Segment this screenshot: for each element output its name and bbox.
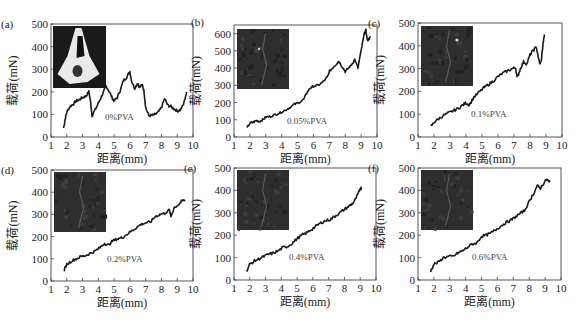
x-tick-label: 8 <box>526 282 532 294</box>
y-tick-label: 200 <box>32 86 49 98</box>
x-tick-label: 7 <box>326 282 332 294</box>
y-tick-label: 0 <box>226 274 232 286</box>
x-tick-label: 7 <box>511 139 517 151</box>
inset-micrograph <box>237 29 289 89</box>
chart-panel-a: 123456789100100200300400500(a)距离(mm)载荷(m… <box>1 18 199 166</box>
x-tick-label: 6 <box>310 282 316 294</box>
chart-panel-d: 123456789100100200300400500(d)距离(mm)载荷(m… <box>1 164 199 310</box>
x-tick-label: 10 <box>557 139 569 151</box>
x-tick-label: 9 <box>543 139 549 151</box>
inset-micrograph <box>421 170 474 231</box>
x-tick-label: 9 <box>542 282 548 294</box>
x-tick-label: 1 <box>48 283 54 295</box>
y-tick-label: 100 <box>399 108 416 120</box>
y-axis-label: 载荷(mN) <box>189 199 203 249</box>
x-tick-label: 2 <box>431 282 437 294</box>
panel-label: (b) <box>191 16 204 29</box>
y-tick-label: 500 <box>32 18 49 30</box>
y-tick-label: 200 <box>215 229 232 241</box>
x-tick-label: 6 <box>311 139 317 151</box>
y-axis-label: 载荷(mN) <box>6 201 20 251</box>
x-tick-label: 5 <box>294 282 300 294</box>
y-tick-label: 500 <box>399 162 416 174</box>
x-tick-label: 10 <box>372 139 384 151</box>
x-tick-label: 8 <box>342 139 348 151</box>
y-tick-label: 0 <box>43 131 49 143</box>
x-tick-label: 4 <box>463 282 469 294</box>
chart-panel-c: 123456789100100200300400500(c)距离(mm)载荷(m… <box>368 17 568 166</box>
pva-annotation: 0.05%PVA <box>287 116 328 126</box>
x-tick-label: 7 <box>327 139 333 151</box>
figure-canvas: 123456789100100200300400500(a)距离(mm)载荷(m… <box>0 0 582 322</box>
x-tick-label: 5 <box>295 139 301 151</box>
y-tick-label: 100 <box>32 253 49 265</box>
x-tick-label: 5 <box>111 139 117 151</box>
x-tick-label: 8 <box>527 139 533 151</box>
y-tick-label: 600 <box>215 28 232 40</box>
pva-annotation: 0.2%PVA <box>107 254 143 264</box>
y-tick-label: 100 <box>215 252 232 264</box>
x-tick-label: 3 <box>447 139 453 151</box>
y-tick-label: 300 <box>399 63 416 75</box>
y-tick-label: 400 <box>215 62 232 74</box>
x-tick-label: 3 <box>263 139 269 151</box>
chart-panel-e: 123456789100100200300400500(e)距离(mm)载荷(m… <box>184 162 382 309</box>
x-axis-label: 距离(mm) <box>280 294 331 309</box>
inset-micrograph <box>54 172 107 232</box>
x-tick-label: 6 <box>127 283 133 295</box>
y-tick-label: 100 <box>215 114 232 126</box>
y-tick-label: 500 <box>399 17 416 29</box>
x-tick-label: 1 <box>48 139 54 151</box>
y-tick-label: 0 <box>226 131 232 143</box>
y-tick-label: 200 <box>399 229 416 241</box>
y-axis-label: 载荷(mN) <box>6 56 20 106</box>
x-tick-label: 4 <box>96 139 102 151</box>
y-tick-label: 0 <box>43 275 49 287</box>
x-axis-label: 距离(mm) <box>97 295 148 310</box>
inset-micrograph <box>421 26 473 86</box>
y-tick-label: 100 <box>399 252 416 264</box>
x-tick-label: 4 <box>279 282 285 294</box>
y-tick-label: 400 <box>32 41 49 53</box>
x-tick-label: 5 <box>479 282 485 294</box>
x-tick-label: 9 <box>174 283 180 295</box>
x-tick-label: 7 <box>143 139 149 151</box>
y-tick-label: 300 <box>399 207 416 219</box>
y-tick-label: 500 <box>215 45 232 57</box>
y-tick-label: 500 <box>215 162 232 174</box>
y-tick-label: 200 <box>399 85 416 97</box>
panel-label: (c) <box>368 17 381 30</box>
x-tick-label: 10 <box>371 282 383 294</box>
y-tick-label: 400 <box>399 40 416 52</box>
x-axis-label: 距离(mm) <box>464 294 515 309</box>
x-tick-label: 1 <box>231 282 237 294</box>
y-tick-label: 400 <box>215 184 232 196</box>
x-tick-label: 4 <box>279 139 285 151</box>
x-tick-label: 10 <box>188 283 200 295</box>
x-tick-label: 4 <box>96 283 102 295</box>
x-tick-label: 6 <box>495 139 501 151</box>
y-tick-label: 500 <box>32 164 49 176</box>
x-tick-label: 5 <box>111 283 117 295</box>
inset-micrograph <box>237 170 289 231</box>
x-tick-label: 7 <box>511 282 517 294</box>
x-tick-label: 2 <box>247 282 253 294</box>
x-tick-label: 2 <box>64 283 70 295</box>
panel-label: (a) <box>1 18 14 31</box>
x-tick-label: 9 <box>174 139 180 151</box>
y-axis-label: 载荷(mN) <box>373 199 387 249</box>
x-tick-label: 8 <box>342 282 348 294</box>
chart-panel-b: 123456789100100200300400500600(b)距离(mm)载… <box>189 16 383 166</box>
x-tick-label: 8 <box>159 283 165 295</box>
y-tick-label: 300 <box>32 63 49 75</box>
panel-label: (d) <box>1 164 14 177</box>
y-tick-label: 400 <box>399 184 416 196</box>
x-tick-label: 9 <box>357 282 363 294</box>
y-tick-label: 100 <box>32 108 49 120</box>
y-tick-label: 300 <box>215 79 232 91</box>
x-tick-label: 3 <box>80 139 86 151</box>
pva-annotation: 0.1%PVA <box>471 109 507 119</box>
y-axis-label: 载荷(mN) <box>373 55 387 105</box>
panel-label: (e) <box>184 162 197 175</box>
y-tick-label: 200 <box>215 97 232 109</box>
